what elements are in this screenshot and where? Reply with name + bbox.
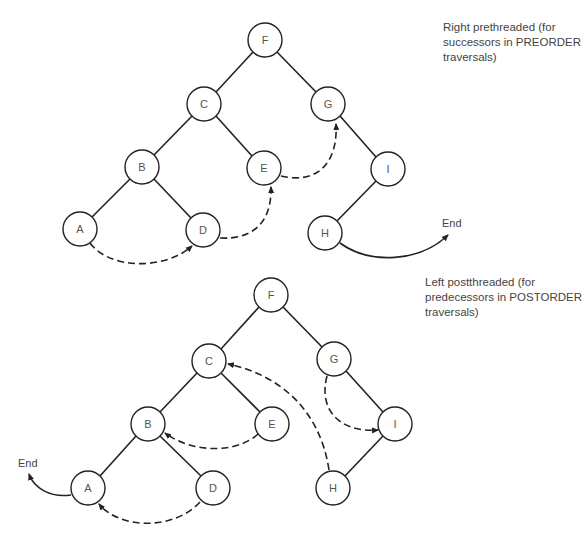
tree-edges [92, 52, 376, 221]
thread-A-to-end [29, 474, 71, 496]
tree-nodes [71, 278, 412, 505]
edge-B-D [154, 179, 191, 218]
node-label-D: D [209, 482, 217, 494]
tree-edges [100, 307, 383, 476]
edge-C-E [216, 116, 252, 156]
edge-C-B [160, 373, 197, 412]
node-label-C: C [205, 355, 213, 367]
caption-line: Right prethreaded (for [443, 20, 581, 35]
node-label-B: B [144, 418, 151, 430]
edge-C-E [221, 373, 260, 412]
thread-E-to-B [165, 433, 258, 449]
node-label-H: H [329, 482, 337, 494]
edge-F-G [277, 52, 316, 92]
edge-F-C [221, 307, 259, 349]
node-label-E: E [260, 162, 267, 174]
caption-right-prethreaded: Right prethreaded (for successors in PRE… [443, 20, 581, 65]
node-label-I: I [386, 163, 389, 175]
edge-I-H [337, 181, 376, 221]
node-label-A: A [84, 482, 92, 494]
edge-F-C [216, 52, 253, 92]
thread-D-to-A [99, 502, 200, 523]
node-label-I: I [393, 418, 396, 430]
node-labels: F C G B E I A D H [76, 34, 389, 239]
caption-left-postthreaded: Left postthreaded (for predecessors in P… [425, 275, 582, 320]
edge-I-H [345, 436, 383, 476]
node-label-G: G [324, 98, 333, 110]
node-label-B: B [138, 161, 145, 173]
end-label-bottom: End [18, 457, 38, 469]
edge-C-B [154, 116, 192, 155]
thread-links [90, 124, 448, 264]
caption-line: Left postthreaded (for [425, 275, 582, 290]
node-label-F: F [268, 289, 275, 301]
caption-line: traversals) [443, 50, 581, 65]
node-label-G: G [330, 353, 339, 365]
thread-E-to-G [281, 124, 336, 178]
caption-line: successors in PREORDER [443, 35, 581, 50]
thread-G-to-I [325, 376, 378, 430]
thread-D-to-E [220, 187, 271, 238]
end-label-top: End [442, 217, 462, 229]
node-label-D: D [199, 224, 207, 236]
node-label-C: C [200, 98, 208, 110]
thread-A-to-D [90, 243, 192, 264]
edge-G-I [346, 371, 383, 412]
node-label-A: A [76, 223, 84, 235]
caption-line: predecessors in POSTORDER [425, 290, 582, 305]
edge-G-I [340, 116, 376, 157]
caption-line: traversals) [425, 305, 582, 320]
thread-H-to-end [340, 235, 448, 258]
node-label-H: H [321, 227, 329, 239]
edge-F-G [283, 307, 322, 347]
right-prethreaded-tree: F C G B E I A D H End [63, 23, 462, 264]
threaded-tree-diagram: F C G B E I A D H End [0, 0, 587, 543]
node-label-F: F [262, 34, 269, 46]
edge-B-A [92, 179, 130, 217]
left-postthreaded-tree: F C G B E I A D H End [18, 278, 412, 523]
edge-B-A [100, 436, 136, 476]
node-label-E: E [268, 418, 275, 430]
